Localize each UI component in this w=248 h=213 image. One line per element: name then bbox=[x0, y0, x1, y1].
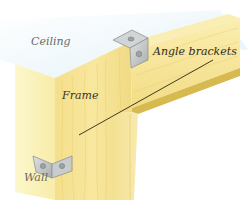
door-frame-illustration: Ceiling Frame Angle brackets Wall bbox=[0, 0, 248, 213]
angle-brackets-label: Angle brackets bbox=[153, 46, 237, 57]
ceiling-label: Ceiling bbox=[31, 36, 71, 47]
wall-label: Wall bbox=[24, 172, 48, 183]
frame-post bbox=[112, 112, 138, 200]
frame-label: Frame bbox=[62, 90, 98, 101]
